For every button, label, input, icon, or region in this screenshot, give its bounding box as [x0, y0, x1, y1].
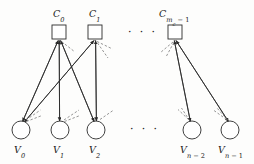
var-label-base-vn1: V [218, 144, 225, 155]
dashed-message-group [26, 42, 228, 122]
check-node-group [52, 25, 182, 39]
var-label-sub-v2: 2 [96, 152, 100, 160]
edge-c0-v0-down [23, 41, 59, 122]
edge-c0-v2-down [61, 41, 95, 122]
var-label-sub-v1: 1 [60, 152, 64, 160]
variable-node-vn2[interactable] [183, 121, 201, 139]
variable-node-vn1[interactable] [221, 121, 239, 139]
check-node-c1[interactable] [88, 25, 102, 39]
check-node-cm[interactable] [168, 25, 182, 39]
edge-cm-vn1-down [176, 41, 229, 122]
dashed-c1-b [98, 43, 109, 58]
check-node-label-cm: Cmc − 1 [159, 9, 189, 20]
check-node-label-c0: C0 [53, 9, 64, 19]
variable-node-label-v2: V2 [89, 145, 100, 155]
dashed-vn2-a [178, 110, 189, 120]
var-label-sub-vn2: n − 2 [187, 152, 205, 160]
variable-node-label-v1: V1 [53, 145, 64, 155]
variable-node-label-vn1: Vn − 1 [218, 145, 243, 155]
bottom-ellipsis: · · · [130, 124, 159, 135]
tanner-graph-figure: C0 C1 Cmc − 1 V0 V1 V2 Vn − 2 Vn − 1 · ·… [0, 0, 254, 164]
var-label-base-vn2: V [180, 144, 187, 155]
variable-node-v1[interactable] [51, 121, 69, 139]
dashed-v1-a [64, 110, 79, 120]
check-node-label-c1: C1 [89, 9, 100, 19]
var-label-sub-vn1: n − 1 [225, 152, 243, 160]
dashed-v1-b [65, 116, 81, 122]
check-node-c0[interactable] [52, 25, 66, 39]
graph-canvas [0, 0, 254, 164]
variable-node-group [12, 121, 239, 139]
var-label-sub-v0: 0 [21, 152, 25, 160]
dashed-c1-a [97, 42, 113, 50]
variable-node-v2[interactable] [87, 121, 105, 139]
variable-node-label-v0: V0 [14, 145, 25, 155]
check-label-sub-cm: mc − 1 [166, 16, 189, 24]
check-label-sub-c1: 1 [96, 16, 100, 24]
var-label-base-v1: V [53, 144, 60, 155]
var-label-base-v2: V [89, 144, 96, 155]
dashed-v2-a [100, 111, 113, 120]
top-ellipsis: · · · [128, 27, 157, 38]
edge-c1-v2-down [96, 41, 97, 122]
edge-group [23, 41, 229, 123]
var-label-base-v0: V [14, 144, 21, 155]
variable-node-label-vn2: Vn − 2 [180, 145, 205, 155]
dashed-cm-b [167, 43, 174, 57]
check-label-sub-c0: 0 [60, 16, 64, 24]
variable-node-v0[interactable] [12, 121, 30, 139]
check-label-subtail-cm: − 1 [175, 16, 189, 24]
